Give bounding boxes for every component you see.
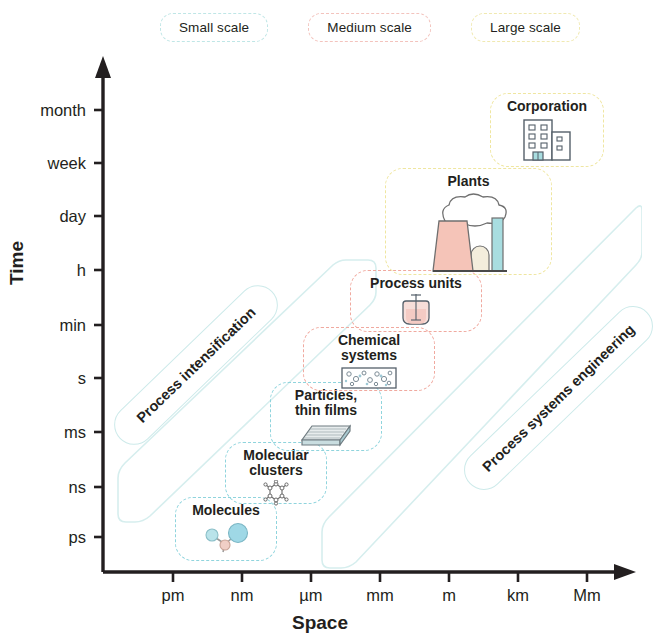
scale-box-label: Process units	[370, 276, 462, 291]
scale-box-label: Plants	[447, 174, 489, 189]
scale-box-molecules[interactable]: Molecules	[175, 497, 277, 561]
scale-box-corporation[interactable]: Corporation	[490, 93, 604, 167]
factory-icon	[415, 191, 523, 273]
building-icon	[520, 116, 574, 162]
scale-box-label: Chemical systems	[338, 333, 400, 363]
scale-box-molecular-clusters[interactable]: Molecular clusters	[225, 442, 327, 504]
scale-box-particles-thin-films[interactable]: Particles, thin films	[270, 382, 382, 451]
scale-box-label: Corporation	[507, 99, 587, 114]
scale-box-plants[interactable]: Plants	[385, 168, 552, 275]
scale-box-label: Molecular clusters	[243, 448, 308, 478]
scale-box-label: Particles, thin films	[295, 388, 357, 418]
scale-box-label: Molecules	[192, 503, 260, 518]
beaker-icon	[340, 365, 398, 391]
molecule-icon	[199, 520, 253, 554]
cluster-icon	[260, 480, 292, 506]
scale-box-chemical-systems[interactable]: Chemical systems	[303, 327, 435, 391]
thin-film-icon	[298, 420, 354, 450]
scale-box-process-units[interactable]: Process units	[350, 270, 482, 332]
reactor-icon	[398, 293, 434, 327]
